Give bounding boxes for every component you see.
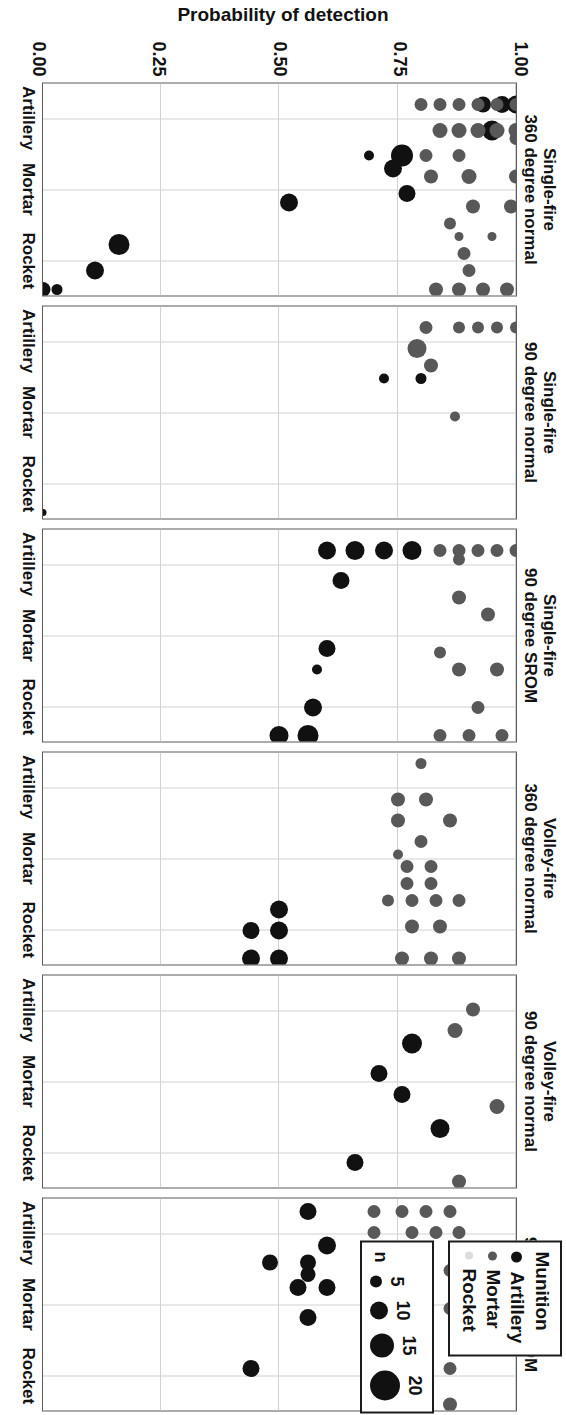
data-point (382, 894, 394, 906)
data-point (510, 98, 518, 111)
panel-title: Single-fire90 degree normal (517, 305, 566, 519)
data-point (405, 919, 419, 933)
data-point (416, 373, 427, 384)
panel-plot-area (42, 751, 517, 965)
gridline-vertical (43, 858, 516, 859)
data-point (271, 949, 289, 965)
data-point (433, 919, 447, 933)
data-point (108, 234, 129, 255)
data-point (453, 149, 466, 162)
panel-title: Volley-fire90 degree normal (517, 974, 566, 1188)
data-point (431, 1118, 450, 1137)
gridline-vertical (43, 260, 516, 261)
data-point (364, 150, 374, 160)
data-point (299, 1202, 316, 1219)
data-point (379, 373, 389, 383)
data-point (429, 1225, 442, 1238)
data-point (510, 132, 518, 145)
chart-figure: Probability of detection 0.000.250.500.7… (0, 0, 566, 1415)
data-point (461, 169, 476, 184)
data-point (462, 728, 475, 741)
data-point (395, 951, 409, 965)
data-point (472, 544, 485, 557)
size-legend-label: 10 (392, 1300, 413, 1320)
data-point (280, 193, 298, 211)
gridline-vertical (43, 189, 516, 190)
data-point (500, 282, 514, 296)
gridline-vertical (43, 1233, 516, 1234)
data-point (495, 728, 508, 741)
data-point (490, 662, 504, 676)
x-tick-label: Artillery (18, 86, 38, 150)
size-legend-item[interactable]: 10 (370, 1300, 413, 1320)
y-tick-label: 0.25 (148, 41, 169, 76)
data-point (481, 607, 495, 621)
munition-legend-item[interactable]: Mortar (482, 1251, 504, 1343)
size-legend-dot-icon (370, 1301, 388, 1319)
data-point (347, 1153, 364, 1170)
data-point (452, 282, 466, 296)
data-point (416, 757, 427, 768)
data-point (290, 1279, 307, 1296)
gridline-vertical (43, 118, 516, 119)
y-tick-label: 0.00 (28, 41, 49, 76)
data-point (297, 724, 318, 742)
data-point (396, 1204, 409, 1217)
data-point (271, 900, 289, 918)
data-point (420, 1204, 433, 1217)
data-point (368, 1225, 381, 1238)
x-tick-label: Mortar (18, 386, 38, 439)
panel-plot-area (42, 305, 517, 519)
y-axis-label: Probability of detection (0, 0, 566, 30)
data-point (346, 541, 365, 560)
data-point (402, 541, 421, 560)
munition-legend-label: Artillery (506, 1271, 528, 1343)
data-point (453, 98, 466, 111)
size-legend-item[interactable]: 20 (370, 1370, 425, 1400)
data-point (457, 246, 470, 259)
data-point (375, 541, 393, 559)
panel-title-line1: Volley-fire (540, 1041, 560, 1122)
data-point (491, 98, 504, 111)
x-tick-label: Rocket (18, 1347, 38, 1404)
data-point (429, 894, 442, 907)
data-point (472, 321, 484, 333)
data-point (510, 321, 517, 333)
size-legend-item[interactable]: 5 (370, 1275, 407, 1287)
size-legend-label: 15 (398, 1335, 419, 1355)
gridline-vertical (43, 1010, 516, 1011)
data-point (452, 662, 466, 676)
facet-panel: Single-fire360 degree normalArtilleryMor… (0, 82, 566, 296)
panel-title-line2: 90 degree normal (520, 342, 540, 483)
data-point (312, 664, 322, 674)
size-legend-dot-icon (370, 1275, 382, 1287)
data-point (420, 149, 433, 162)
munition-legend-item[interactable]: Artillery (506, 1251, 528, 1343)
panel-x-axis: ArtilleryMortarRocket (0, 528, 42, 742)
x-tick-label: Artillery (18, 532, 38, 596)
facet-panel: Single-fire90 degree SROMArtilleryMortar… (0, 528, 566, 742)
panel-title-line1: Single-fire (540, 370, 560, 453)
data-point (270, 725, 289, 742)
data-point (42, 281, 51, 296)
data-point (434, 728, 447, 741)
data-point (504, 199, 517, 213)
x-tick-label: Artillery (18, 1201, 38, 1265)
data-point (472, 701, 485, 714)
panel-x-axis: ArtilleryMortarRocket (0, 974, 42, 1188)
data-point (424, 358, 438, 372)
munition-legend-label: Rocket (458, 1268, 480, 1331)
panel-title-line1: Single-fire (540, 593, 560, 676)
x-tick-label: Artillery (18, 309, 38, 373)
data-point (401, 860, 414, 873)
munition-legend: Munition ArtilleryMortarRocket (448, 1240, 562, 1356)
munition-legend-item[interactable]: Rocket (458, 1251, 480, 1343)
data-point (370, 1064, 387, 1081)
panel-title: Volley-fire360 degree normal (517, 751, 566, 965)
data-point (262, 1254, 278, 1270)
size-legend-item[interactable]: 15 (370, 1333, 419, 1357)
gridline-vertical (43, 1081, 516, 1082)
munition-color-dot-icon (465, 1251, 473, 1259)
data-point (471, 122, 486, 137)
legends-container: Munition ArtilleryMortarRocket n 5101520 (360, 1240, 562, 1413)
